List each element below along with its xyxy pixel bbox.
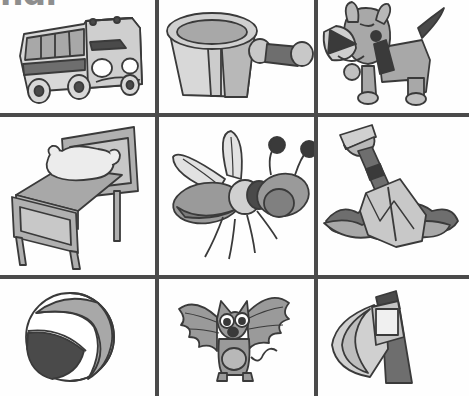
picture-cell-pan[interactable] <box>159 0 314 113</box>
picture-cell-axe[interactable] <box>318 279 469 396</box>
picture-cell-dog[interactable] <box>318 0 469 113</box>
worksheet-page: nd. <box>0 0 469 396</box>
picture-cell-bat[interactable] <box>159 279 314 396</box>
picture-cell-shovel[interactable] <box>318 117 469 275</box>
picture-cell-fly[interactable] <box>159 117 314 275</box>
picture-cell-van[interactable] <box>0 0 155 113</box>
picture-cell-bed[interactable] <box>0 117 155 275</box>
picture-cell-ball[interactable] <box>0 279 155 396</box>
